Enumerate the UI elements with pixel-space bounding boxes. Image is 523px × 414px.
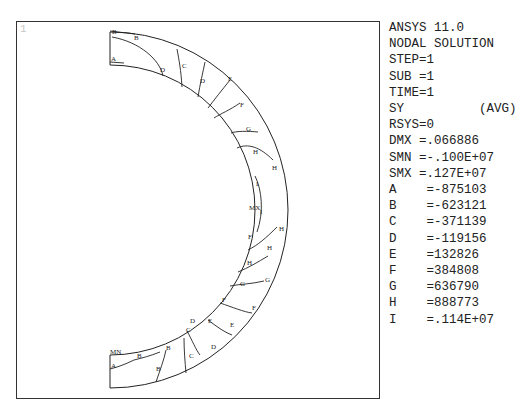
contour-label: B [166, 344, 171, 352]
solution-type: NODAL SOLUTION [389, 36, 517, 52]
smx-value: SMX =.127E+07 [389, 166, 517, 182]
level-g: G =636790 [389, 279, 517, 295]
contour-label: F [252, 304, 256, 312]
contour-label: D [200, 77, 205, 85]
contour-label: H [279, 225, 284, 233]
contour-label: E [208, 317, 212, 325]
contour-label: E [230, 321, 234, 329]
min-marker: MN [110, 348, 121, 356]
contour-label: B [156, 365, 161, 373]
legend-panel: ANSYS 11.0 NODAL SOLUTION STEP=1 SUB =1 … [389, 20, 517, 328]
step-value: STEP=1 [389, 52, 517, 68]
sub-value: SUB =1 [389, 69, 517, 85]
level-i: I =.114E+07 [389, 312, 517, 328]
contour-label: D [160, 66, 165, 74]
inner-boundary [110, 65, 255, 355]
contour-label: G [246, 125, 251, 133]
time-value: TIME=1 [389, 85, 517, 101]
contour-label: B [137, 352, 142, 360]
rsys-value: RSYS=0 [389, 117, 517, 133]
contour-label: H [247, 259, 252, 267]
contour-label: B [112, 28, 117, 36]
level-c: C =-371139 [389, 214, 517, 230]
contour-label: H [272, 164, 277, 172]
level-h: H =888773 [389, 295, 517, 311]
contour-label: D [211, 343, 216, 351]
dmx-value: DMX =.066886 [389, 133, 517, 149]
contour-label: B [134, 34, 139, 42]
level-b: B =-623121 [389, 198, 517, 214]
contour-label: G [240, 280, 245, 288]
contour-label: H [253, 148, 258, 156]
max-marker: MX [249, 204, 260, 212]
contour-label: H [267, 244, 272, 252]
level-f: F =384808 [389, 263, 517, 279]
level-a: A =-875103 [389, 182, 517, 198]
contour-label: C [189, 352, 194, 360]
contour-labels: BBADCDEFGHHIMXIHHFHGGFFEEDCDBCBBAMN [110, 28, 284, 373]
result-item: SY (AVG) [389, 101, 517, 117]
contour-label: F [248, 233, 252, 241]
contour-label: D [190, 317, 195, 325]
level-d: D =-119156 [389, 231, 517, 247]
contour-label: G [265, 276, 270, 284]
smn-value: SMN =-.100E+07 [389, 150, 517, 166]
contour-label: A [111, 55, 116, 63]
contour-label: A [111, 362, 116, 370]
contour-label: F [240, 101, 244, 109]
product-title: ANSYS 11.0 [389, 20, 517, 36]
contour-label: E [228, 75, 232, 83]
level-e: E =132826 [389, 247, 517, 263]
contour-label: C [186, 326, 191, 334]
contour-label: C [182, 62, 187, 70]
contour-label: I [260, 208, 263, 216]
contour-label: F [222, 296, 226, 304]
